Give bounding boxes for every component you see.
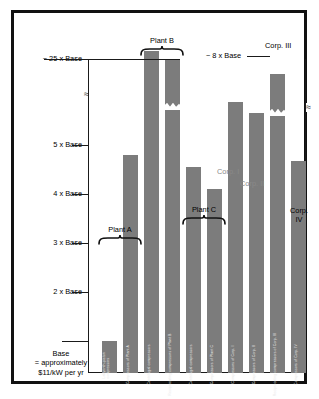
group-bracket-plant-c [182,215,226,225]
leader-twentyfive-x-base [88,59,180,60]
bar-label-7: Compressors of Corp. II [253,345,257,384]
y-tick-leader-base [62,341,88,342]
bar-break-icon-corp-3 [269,109,286,116]
figure-frame: ≈ ≈ ~ 25 x Base 5 x Base 4 x Base 3 x Ba… [11,10,307,384]
base-note-line-2: = approximately [26,358,96,367]
bar-reciprocating-compressors-corp-3[interactable]: Reciprocating compressors of Corp. III [270,74,285,373]
y-tick-leader-5 [72,145,88,146]
callout-corp-3: Corp. III [265,41,291,50]
callout-corp-4-line-2: IV [296,215,303,224]
base-note: Base = approximately $11/kW per yr [26,349,96,377]
bar-label-1: Compressors of Plant A [127,346,131,385]
group-label-plant-a: Plant A [94,225,146,234]
callout-corp-4: Corp. IV [284,207,314,224]
y-axis-break-icon: ≈ [84,90,88,99]
y-tick-leader-3 [72,243,88,244]
right-axis-break-icon: ≈ [306,103,310,112]
bar-reciprocating-compressors-plant-b[interactable]: Reciprocating compressors of Plant B [165,59,180,373]
chart-figure: ≈ ≈ ~ 25 x Base 5 x Base 4 x Base 3 x Ba… [0,0,319,399]
bar-labyrinth-piston-compressors[interactable]: Labyrinth-piston compressors [102,341,117,373]
bar-label-0: Labyrinth-piston compressors [101,352,109,379]
base-note-line-3: $11/kW per yr [26,368,96,377]
bar-label-2: Centrifugal compressors [148,345,152,385]
leader-eight-x-base [247,56,270,57]
group-label-plant-b: Plant B [136,36,188,45]
base-note-line-1: Base [26,349,96,358]
bar-label-6: Compressors of Corp. I [232,346,236,384]
bar-compressors-of-corp-4[interactable]: Compressors of Corp. IV [291,161,306,373]
y-tick-leader-25 [44,59,88,60]
group-bracket-plant-a [98,235,142,245]
bar-compressors-of-corp-2[interactable]: Compressors of Corp. II [249,113,264,373]
bar-label-5: Compressors of Plant C [211,345,215,384]
bar-label-9: Compressors of Corp. IV [295,345,299,386]
bar-centrifugal-compressors-plant-c[interactable]: Centrifugal compressors [186,167,201,373]
callout-corp-2: Corp. II [240,179,264,188]
bar-break-icon-plant-b [164,103,181,110]
group-bracket-plant-b [140,46,184,56]
bar-compressors-of-plant-a[interactable]: Compressors of Plant A [123,155,138,373]
bar-centrifugal-compressors-plant-b[interactable]: Centrifugal compressors [144,51,159,373]
bar-compressors-of-corp-1[interactable]: Compressors of Corp. I [228,102,243,373]
y-tick-leader-4 [72,194,88,195]
y-tick-leader-2 [72,292,88,293]
plot-area: ≈ ≈ ~ 25 x Base 5 x Base 4 x Base 3 x Ba… [88,37,306,373]
bar-label-3: Reciprocating compressors of Plant B [169,334,173,396]
y-axis-line [88,59,89,373]
bar-label-8: Reciprocating compressors of Corp. III [274,333,278,397]
group-label-plant-c: Plant C [178,205,230,214]
bar-label-4: Centrifugal compressors [190,345,194,385]
callout-corp-1: Corp. I [217,167,239,176]
callout-eight-x-base: ~ 8 x Base [206,51,241,60]
